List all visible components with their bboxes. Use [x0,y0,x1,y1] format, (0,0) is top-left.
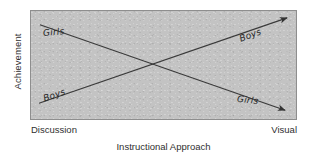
x-axis-tick-discussion: Discussion [31,124,77,135]
y-axis-title: Achievement [12,18,23,106]
x-axis-title: Instructional Approach [30,141,297,152]
series-label-girls-start: Girls [43,26,65,38]
plot-area: Girls Boys Boys Girls [30,10,297,120]
achievement-by-instructional-approach-chart: Achievement Girls Boys Boys Girls Discus… [0,0,311,160]
series-label-girls-end: Girls [237,94,259,106]
x-axis-tick-visual: Visual [271,124,297,135]
